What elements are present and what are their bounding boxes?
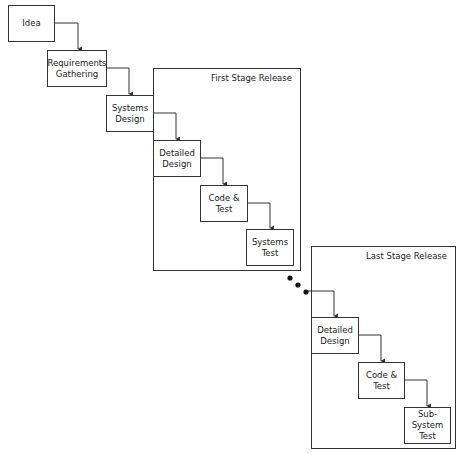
last-stage-release-label: Last Stage Release xyxy=(366,251,447,261)
detailed-design-node-2-label: Detailed Design xyxy=(317,325,353,347)
sub-system-test-node: Sub-System Test xyxy=(404,407,451,444)
systems-test-node: Systems Test xyxy=(246,229,294,266)
systems-test-node-label: Systems Test xyxy=(252,237,288,259)
detailed-design-node-2: Detailed Design xyxy=(311,317,359,354)
requirements-gathering-node: Requirements Gathering xyxy=(47,50,107,87)
detailed-design-node-1: Detailed Design xyxy=(153,140,201,177)
first-stage-release-label: First Stage Release xyxy=(211,73,292,83)
sub-system-test-node-label: Sub-System Test xyxy=(405,409,450,442)
code-test-node-1: Code & Test xyxy=(200,185,248,222)
idea-node: Idea xyxy=(8,5,55,42)
code-test-node-2-label: Code & Test xyxy=(366,370,397,392)
detailed-design-node-1-label: Detailed Design xyxy=(159,148,195,170)
idea-node-label: Idea xyxy=(22,18,40,29)
requirements-gathering-node-label: Requirements Gathering xyxy=(47,58,106,80)
code-test-node-1-label: Code & Test xyxy=(208,193,239,215)
continuation-dots-icon xyxy=(287,275,308,294)
systems-design-node: Systems Design xyxy=(106,95,154,132)
arrow-requirements-to-systems-design xyxy=(106,68,129,94)
arrow-idea-to-requirements xyxy=(54,23,78,49)
code-test-node-2: Code & Test xyxy=(358,362,405,399)
systems-design-node-label: Systems Design xyxy=(112,103,148,125)
